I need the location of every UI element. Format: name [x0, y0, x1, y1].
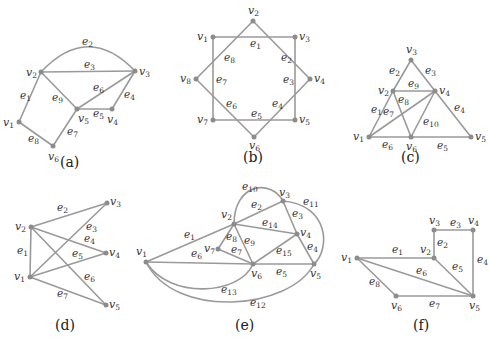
- vertex-f-v5: [471, 294, 476, 299]
- edge-label-d-e7: e7: [57, 287, 68, 301]
- caption-b: (b): [243, 149, 263, 165]
- edge-label-f-e5: e5: [452, 260, 463, 274]
- edge-label-b-e7: e7: [216, 73, 227, 87]
- vertex-c-v1: [367, 135, 372, 140]
- vertex-f-v1: [355, 256, 360, 261]
- edge-label-e-e15: e15: [276, 244, 292, 258]
- vertex-label-f-v3: v3: [429, 214, 440, 228]
- vertex-a-v3: [133, 69, 138, 74]
- vertex-e-v7: [216, 247, 221, 252]
- edge-label-e-e8: e8: [226, 230, 237, 244]
- graph-a: v1 v2 v3 v4 v5 v6 e1 e2 e3 e4 e5 e6 e7 e…: [3, 35, 150, 170]
- edge-label-f-e1: e1: [392, 243, 403, 257]
- edge-label-f-e7: e7: [429, 297, 440, 311]
- edge-label-e-e6: e6: [191, 247, 202, 261]
- graph-c-edge-labels: e1 e2 e3 e4 e5 e6 e7 e8 e9 e10: [371, 64, 465, 153]
- vertex-f-v2: [432, 256, 437, 261]
- vertex-d-v5: [104, 303, 109, 308]
- vertex-label-a-v2: v2: [26, 66, 37, 80]
- edge-label-a-e8: e8: [28, 132, 39, 146]
- vertex-d-v3: [105, 201, 110, 206]
- edge-label-e-e10: e10: [242, 180, 258, 194]
- edge-label-b-e3: e3: [283, 73, 294, 87]
- edge-label-c-e2: e2: [389, 64, 400, 78]
- edge-label-c-e4: e4: [454, 101, 465, 115]
- vertex-a-v4: [110, 107, 115, 112]
- edge-label-a-e1: e1: [20, 89, 31, 103]
- vertex-b-v5: [293, 118, 298, 123]
- edge-label-e-e7: e7: [231, 243, 242, 257]
- vertex-label-e-v6: v6: [251, 267, 262, 281]
- vertex-b-v7: [211, 118, 216, 123]
- edge-label-b-e4: e4: [272, 97, 283, 111]
- vertex-label-e-v2: v2: [221, 208, 232, 222]
- vertex-e-v6: [251, 262, 256, 267]
- vertex-label-f-v4: v4: [468, 214, 479, 228]
- graph-e: v1 v2 v3 v4 v5 v6 v7 e1 e2 e3 e4 e5 e6 e…: [136, 180, 324, 333]
- edge-label-a-e3: e3: [84, 58, 95, 72]
- vertex-e-v1: [144, 260, 149, 265]
- vertex-label-f-v6: v6: [391, 299, 402, 313]
- vertex-e-v4: [295, 232, 300, 237]
- edge-label-e-e1: e1: [184, 228, 195, 242]
- edge-label-e-e11: e11: [303, 195, 319, 209]
- vertex-label-e-v1: v1: [136, 245, 147, 259]
- edge-label-e-e5: e5: [276, 265, 287, 279]
- edge-a-e7: [53, 109, 77, 146]
- vertex-f-v4: [471, 228, 476, 233]
- edge-label-c-e6: e6: [382, 138, 393, 152]
- vertex-label-f-v2: v2: [420, 243, 431, 257]
- edge-d-e1: [30, 227, 31, 277]
- vertex-label-c-v4: v4: [439, 84, 450, 98]
- vertex-c-v3: [409, 58, 414, 63]
- vertex-label-c-v3: v3: [406, 43, 417, 57]
- edge-label-a-e4: e4: [124, 88, 135, 102]
- vertex-f-v6: [394, 294, 399, 299]
- caption-f: (f): [413, 317, 429, 333]
- vertex-label-c-v1: v1: [353, 130, 364, 144]
- vertex-a-v1: [17, 120, 22, 125]
- vertex-label-a-v4: v4: [107, 113, 118, 127]
- edge-label-c-e9: e9: [408, 77, 419, 91]
- vertex-label-e-v5: v5: [310, 267, 321, 281]
- vertex-c-v6: [409, 135, 414, 140]
- edge-e-e6: [146, 262, 253, 264]
- vertex-label-a-v3: v3: [139, 65, 150, 79]
- edge-label-f-e3: e3: [450, 216, 461, 230]
- vertex-d-v4: [104, 251, 109, 256]
- edge-label-d-e4: e4: [84, 232, 95, 246]
- vertex-label-d-v1: v1: [14, 270, 25, 284]
- vertex-a-v5: [75, 107, 80, 112]
- vertex-label-e-v3: v3: [279, 186, 290, 200]
- vertex-label-a-v1: v1: [3, 116, 14, 130]
- vertex-label-c-v5: v5: [475, 130, 486, 144]
- vertex-d-v1: [28, 275, 33, 280]
- vertex-label-d-v4: v4: [109, 246, 120, 260]
- graph-d: v1 v2 v3 v4 v5 e1 e2 e3 e4 e5 e6 e7 (d): [14, 195, 121, 333]
- edge-label-e-e9: e9: [244, 234, 255, 248]
- edge-label-c-e8: e8: [398, 93, 409, 107]
- vertex-b-v4: [308, 77, 313, 82]
- graph-a-edge-labels: e1 e2 e3 e4 e5 e6 e7 e8 e9: [20, 35, 135, 146]
- edge-label-c-e1: e1: [371, 103, 382, 117]
- vertex-label-b-v7: v7: [197, 113, 208, 127]
- edge-label-a-e6: e6: [93, 81, 104, 95]
- vertex-label-e-v4: v4: [300, 226, 311, 240]
- vertex-e-v5: [312, 262, 317, 267]
- edge-label-e-e14: e14: [262, 216, 278, 230]
- edge-b-e8: [196, 21, 253, 79]
- edge-label-a-e7: e7: [67, 125, 78, 139]
- edge-label-c-e5: e5: [437, 139, 448, 153]
- vertex-label-b-v5: v5: [299, 113, 310, 127]
- vertex-c-v4: [433, 89, 438, 94]
- vertex-label-b-v8: v8: [180, 72, 191, 86]
- graph-b-vertex-labels: v1 v2 v3 v4 v5 v6 v7 v8: [180, 4, 325, 153]
- vertex-label-b-v1: v1: [197, 30, 208, 44]
- vertex-label-d-v5: v5: [109, 298, 120, 312]
- edge-label-f-e8: e8: [369, 275, 380, 289]
- edge-c-e4: [435, 91, 471, 137]
- edge-label-e-e3: e3: [292, 207, 303, 221]
- edge-label-f-e2: e2: [437, 236, 448, 250]
- vertex-f-v3: [432, 228, 437, 233]
- vertex-label-b-v2: v2: [248, 4, 259, 18]
